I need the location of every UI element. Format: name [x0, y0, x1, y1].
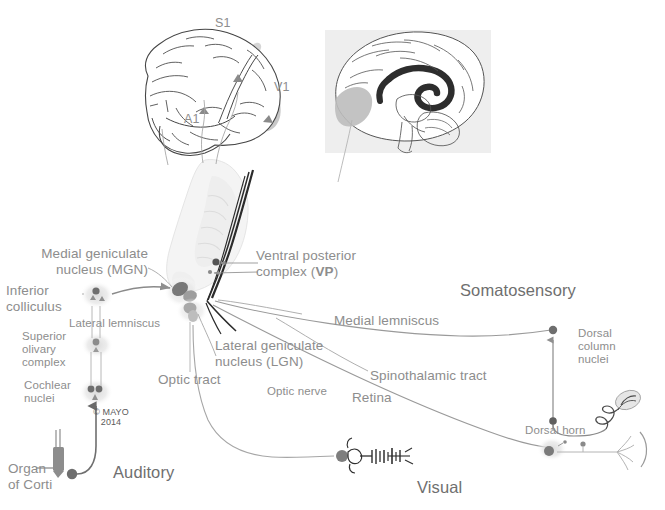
vp-dot-upper — [212, 258, 219, 265]
dorsal-root-ganglion-cell — [580, 441, 585, 446]
copyright-year: 2014 — [84, 417, 138, 427]
retina-cell-body — [348, 449, 362, 464]
label-inferior-colliculus: Inferior colliculus — [6, 283, 62, 314]
vp-label-abbrev: VP — [315, 264, 333, 279]
label-ventral-posterior-complex: Ventral posterior complex (VP) — [256, 248, 356, 279]
label-dorsal-column-nuclei: Dorsal column nuclei — [578, 327, 616, 367]
dorsal-column-nuclei-node — [549, 326, 557, 334]
sagittal-brain-inset-illustration — [335, 32, 484, 182]
vp-label-prefix: Ventral posterior complex ( — [256, 248, 356, 279]
label-optic-nerve: Optic nerve — [267, 385, 327, 398]
label-somatosensory-system: Somatosensory — [460, 281, 576, 300]
label-cochlear-nuclei: Cochlear nuclei — [24, 379, 71, 405]
cochlear-nuclei-halo — [79, 378, 113, 406]
superior-olivary-nucleus — [93, 339, 100, 346]
ic-to-mgn-tract — [112, 287, 170, 294]
lateral-brain-illustration — [145, 29, 280, 155]
inferior-colliculus-halo — [80, 281, 114, 309]
basilar-tip — [53, 471, 64, 478]
cochlear-duct-body — [53, 447, 64, 471]
cochlear-nucleus-left — [88, 386, 95, 393]
label-dorsal-horn: Dorsal horn — [525, 424, 586, 437]
dorsal-horn-neuron — [544, 446, 554, 456]
inset-v1-leader — [338, 120, 352, 182]
label-medial-lemniscus: Medial lemniscus — [334, 313, 439, 329]
label-organ-of-corti: Organ of Corti — [8, 461, 52, 492]
figure-canvas: S1 V1 A1 Medial geniculate nucleus (MGN)… — [0, 0, 665, 510]
copyright-mayo: © MAYO — [84, 407, 138, 417]
label-superior-olivary-complex: Superior olivary complex — [22, 330, 66, 370]
label-retina: Retina — [352, 390, 392, 406]
cochlear-nucleus-right — [96, 386, 103, 393]
skin-surface-outline — [640, 432, 647, 467]
label-s1: S1 — [215, 16, 231, 30]
inferior-colliculus-nucleus — [92, 287, 99, 294]
muscle-spindle-receptor — [596, 405, 621, 429]
label-visual-system: Visual — [417, 478, 462, 497]
label-auditory-system: Auditory — [113, 463, 174, 482]
label-medial-geniculate-nucleus: Medial geniculate nucleus (MGN) — [0, 246, 148, 277]
label-lateral-geniculate-nucleus: Lateral geniculate nucleus (LGN) — [215, 338, 323, 369]
label-a1: A1 — [184, 112, 200, 126]
spiral-ganglion-cell — [67, 469, 77, 479]
label-v1: V1 — [274, 80, 290, 94]
vp-dot-lower — [208, 270, 212, 274]
label-spinothalamic-tract: Spinothalamic tract — [370, 368, 487, 384]
vp-label-suffix: ) — [334, 264, 339, 279]
label-lateral-lemniscus: Lateral lemniscus — [69, 317, 160, 330]
label-optic-tract: Optic tract — [158, 372, 221, 388]
thalamus-illustration — [167, 160, 249, 295]
retinal-ganglion-cell — [336, 450, 348, 462]
